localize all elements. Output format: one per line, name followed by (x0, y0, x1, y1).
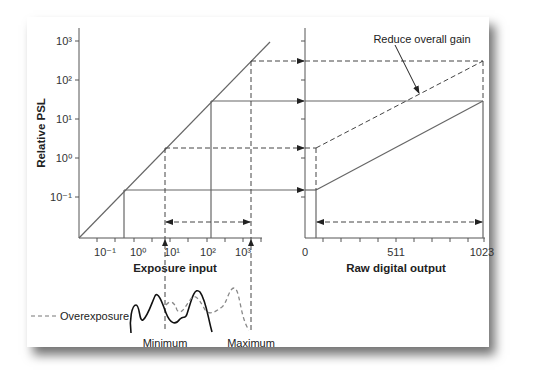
x-tick-label: 1023 (470, 246, 494, 258)
y-tick-label: 10⁻¹ (50, 191, 72, 203)
x-tick-label: 10⁰ (130, 246, 147, 258)
y-axis-title: Relative PSL (35, 98, 47, 168)
x-tick-label: 10² (200, 246, 216, 258)
x-tick-label: 511 (387, 246, 405, 258)
right-response-lines (305, 45, 483, 238)
minimum-label: Minimum (143, 337, 188, 349)
maximum-label: Maximum (227, 337, 275, 349)
x-tick-label: 10⁻¹ (94, 246, 116, 258)
y-tick-label: 10⁰ (56, 152, 73, 164)
gain-annotation: Reduce overall gain (373, 33, 470, 45)
left-axes (75, 28, 262, 242)
y-tick-label: 10¹ (56, 113, 72, 125)
right-axes (301, 28, 485, 242)
exposure-diagram: 10³ 10² 10¹ 10⁰ 10⁻¹ 10⁻¹ 10⁰ 10¹ 10² 10… (0, 0, 537, 382)
x-axis-title-right: Raw digital output (346, 262, 446, 274)
left-response-lines (79, 42, 304, 330)
x-tick-label: 10³ (235, 246, 251, 258)
x-tick-label: 10¹ (164, 246, 180, 258)
y-tick-label: 10³ (56, 35, 72, 47)
x-tick-label: 0 (302, 246, 308, 258)
y-tick-label: 10² (56, 74, 72, 86)
x-axis-title-left: Exposure input (133, 262, 217, 274)
legend-overexposure: Overexposure (60, 310, 129, 322)
